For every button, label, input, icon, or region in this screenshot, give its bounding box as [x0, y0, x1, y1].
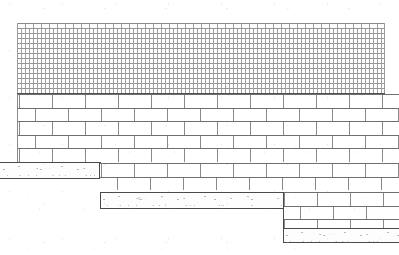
brick-course — [17, 135, 399, 149]
head-joint — [250, 95, 251, 108]
bed-joint — [284, 192, 399, 193]
head-joint — [250, 149, 251, 162]
head-joint — [317, 193, 318, 206]
brick-course — [284, 219, 399, 228]
footing-lower-right — [283, 228, 399, 243]
footing-middle-left-edge — [100, 192, 101, 209]
head-joint — [85, 122, 86, 135]
head-joint — [150, 178, 151, 191]
head-joint — [381, 178, 382, 191]
head-joint — [35, 136, 36, 149]
head-joint — [316, 95, 317, 108]
head-joint — [200, 109, 201, 122]
head-joint — [118, 122, 119, 135]
main-wall-left-edge — [17, 94, 18, 162]
head-joint — [216, 178, 217, 191]
brick-course — [17, 121, 399, 135]
bed-joint — [284, 219, 399, 220]
head-joint — [52, 149, 53, 162]
head-joint — [250, 122, 251, 135]
head-joint — [300, 207, 301, 220]
head-joint — [68, 109, 69, 122]
head-joint — [101, 164, 102, 177]
head-joint — [233, 164, 234, 177]
footing-bottom-edge — [100, 208, 284, 209]
head-joint — [365, 136, 366, 149]
brick-course — [17, 148, 399, 162]
footing-bottom-edge — [0, 178, 100, 179]
head-joint — [349, 122, 350, 135]
head-joint — [383, 193, 384, 206]
region-mid-brick-wall — [100, 163, 399, 192]
head-joint — [151, 95, 152, 108]
head-joint — [282, 178, 283, 191]
head-joint — [184, 122, 185, 135]
head-joint — [217, 122, 218, 135]
head-joint — [284, 193, 285, 206]
head-joint — [299, 164, 300, 177]
annotation-faint-mark-3: · · — [330, 232, 335, 237]
head-joint — [19, 149, 20, 162]
hatch-right-edge — [384, 23, 385, 93]
head-joint — [101, 136, 102, 149]
bed-joint — [284, 206, 399, 207]
head-joint — [315, 178, 316, 191]
head-joint — [365, 109, 366, 122]
head-joint — [217, 149, 218, 162]
head-joint — [249, 178, 250, 191]
footing-lower-right-left-edge — [283, 228, 284, 243]
footing-top-edge — [0, 162, 100, 163]
head-joint — [184, 95, 185, 108]
head-joint — [101, 109, 102, 122]
bed-joint — [17, 108, 399, 109]
head-joint — [266, 109, 267, 122]
head-joint — [151, 149, 152, 162]
head-joint — [366, 207, 367, 220]
hatch-left-edge — [17, 23, 18, 93]
head-joint — [299, 136, 300, 149]
head-joint — [283, 95, 284, 108]
footing-middle — [100, 192, 284, 209]
head-joint — [217, 95, 218, 108]
head-joint — [85, 95, 86, 108]
head-joint — [382, 149, 383, 162]
head-joint — [299, 109, 300, 122]
annotation-faint-mark-2: 2 · · — [138, 196, 147, 201]
region-lower-brick-wall — [284, 192, 399, 228]
hatch-top-edge — [17, 23, 385, 24]
brick-course — [17, 94, 399, 108]
head-joint — [333, 207, 334, 220]
head-joint — [35, 109, 36, 122]
head-joint — [348, 178, 349, 191]
head-joint — [332, 136, 333, 149]
head-joint — [118, 95, 119, 108]
drawing-canvas: · · — [0, 0, 399, 255]
head-joint — [117, 178, 118, 191]
head-joint — [52, 95, 53, 108]
head-joint — [167, 109, 168, 122]
head-joint — [167, 136, 168, 149]
head-joint — [332, 164, 333, 177]
head-joint — [85, 149, 86, 162]
bed-joint — [17, 94, 399, 95]
head-joint — [68, 136, 69, 149]
head-joint — [365, 164, 366, 177]
head-joint — [184, 149, 185, 162]
head-joint — [383, 220, 384, 228]
head-joint — [332, 109, 333, 122]
head-joint — [382, 95, 383, 108]
head-joint — [134, 109, 135, 122]
footing-top-edge — [100, 192, 284, 193]
head-joint — [151, 122, 152, 135]
head-joint — [118, 149, 119, 162]
head-joint — [200, 164, 201, 177]
head-joint — [316, 149, 317, 162]
brick-course — [100, 177, 399, 191]
head-joint — [266, 164, 267, 177]
head-joint — [134, 164, 135, 177]
bed-joint — [17, 121, 399, 122]
head-joint — [316, 122, 317, 135]
region-main-brick-wall — [17, 94, 399, 163]
head-joint — [350, 193, 351, 206]
head-joint — [317, 220, 318, 228]
